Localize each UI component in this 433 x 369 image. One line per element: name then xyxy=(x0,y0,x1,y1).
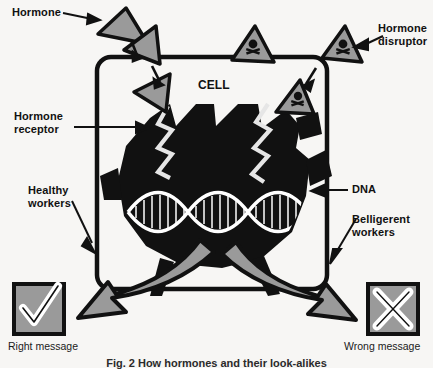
label-belligerent-workers: Belligerent workers xyxy=(352,213,410,238)
label-hormone-receptor: Hormone receptor xyxy=(14,110,63,135)
figure-caption: Fig. 2 How hormones and their look-alike… xyxy=(106,357,327,369)
label-hormone-disruptor: Hormone disruptor xyxy=(378,22,427,47)
wrong-message-box xyxy=(368,284,418,334)
right-message-caption: Right message xyxy=(8,340,78,352)
label-dna: DNA xyxy=(352,183,376,196)
skull-triangle-icon xyxy=(232,26,362,114)
right-message-box xyxy=(14,284,64,334)
label-cell: CELL xyxy=(198,79,230,92)
label-healthy-workers: Healthy workers xyxy=(28,184,71,209)
label-hormone: Hormone xyxy=(12,6,61,19)
wrong-message-caption: Wrong message xyxy=(344,340,420,352)
